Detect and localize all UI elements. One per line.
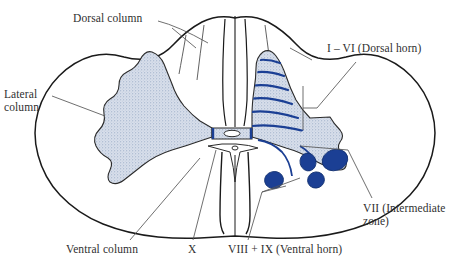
central-canal (224, 130, 240, 136)
label-intermediate-zone: VII (Intermediate zone) (363, 202, 445, 228)
label-ventral-horn: VIII + IX (Ventral horn) (228, 243, 342, 256)
label-dorsal-column: Dorsal column (73, 12, 142, 25)
label-lamina-x: X (188, 243, 196, 256)
label-ventral-column: Ventral column (66, 243, 138, 256)
spinal-cord-diagram (0, 0, 470, 269)
label-dorsal-horn: I – VI (Dorsal horn) (327, 42, 421, 55)
spinal-cord-figure: Dorsal column Lateral column I – VI (Dor… (0, 0, 470, 269)
label-lateral-column: Lateral column (4, 88, 39, 114)
